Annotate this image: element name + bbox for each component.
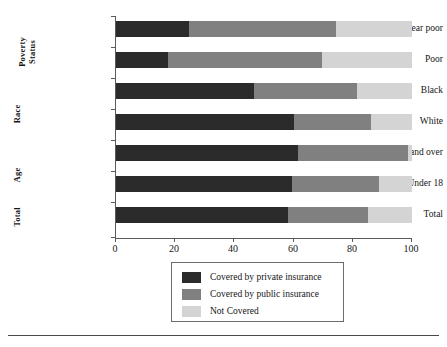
group-label-race: Race (0, 82, 34, 144)
bar-segment-not-covered (379, 176, 412, 192)
bar-segment-covered-by-public-insurance (288, 207, 368, 223)
bar-segment-not-covered (408, 145, 412, 161)
x-axis-tick (293, 238, 294, 242)
bar-segment-covered-by-private-insurance (116, 52, 168, 68)
plot-area: 0 20 40 60 80 100 (115, 16, 412, 238)
group-label-poverty-status-text: Poverty Status (17, 25, 37, 79)
bar-under-18 (116, 176, 412, 192)
bar-poor (116, 52, 412, 68)
bar-segment-not-covered (336, 21, 412, 37)
legend: Covered by private insurance Covered by … (171, 262, 344, 322)
chart-figure: Poverty Status Race Age Total Near poor … (0, 0, 447, 347)
legend-label-private: Covered by private insurance (210, 272, 322, 282)
bar-white (116, 114, 412, 130)
y-axis-tick (111, 140, 115, 141)
bar-segment-covered-by-private-insurance (116, 114, 294, 130)
bar-segment-covered-by-private-insurance (116, 145, 298, 161)
group-label-total: Total (0, 192, 34, 240)
bar-segment-covered-by-private-insurance (116, 207, 288, 223)
x-axis-tick (411, 238, 412, 242)
bar-segment-covered-by-public-insurance (292, 176, 379, 192)
x-tick-label-40: 40 (228, 243, 238, 254)
y-axis-tick (111, 109, 115, 110)
x-tick-label-60: 60 (288, 243, 298, 254)
bar-segment-covered-by-public-insurance (254, 83, 358, 99)
x-tick-label-20: 20 (169, 243, 179, 254)
bar-segment-covered-by-private-insurance (116, 83, 254, 99)
x-tick-label-80: 80 (347, 243, 357, 254)
bar-segment-not-covered (371, 114, 412, 130)
bar-segment-covered-by-public-insurance (294, 114, 371, 130)
x-axis-tick (233, 238, 234, 242)
legend-swatch-not-covered-icon (182, 306, 201, 317)
bar-segment-covered-by-private-insurance (116, 176, 292, 192)
legend-swatch-public-icon (182, 289, 201, 300)
legend-item-private: Covered by private insurance (182, 269, 343, 285)
group-label-age-text: Age (12, 168, 22, 183)
bar-segment-covered-by-public-insurance (168, 52, 323, 68)
bar-segment-covered-by-public-insurance (298, 145, 408, 161)
bar-segment-not-covered (322, 52, 412, 68)
group-label-race-text: Race (12, 105, 22, 124)
legend-item-public: Covered by public insurance (182, 286, 343, 302)
legend-label-not-covered: Not Covered (210, 306, 259, 316)
bar-black (116, 83, 412, 99)
bar-total (116, 207, 412, 223)
y-axis-tick (111, 171, 115, 172)
y-axis-tick (111, 78, 115, 79)
x-axis-tick (352, 238, 353, 242)
y-axis-tick (111, 202, 115, 203)
legend-item-not-covered: Not Covered (182, 303, 343, 319)
bar-segment-not-covered (368, 207, 412, 223)
bar-segment-covered-by-public-insurance (189, 21, 336, 37)
x-axis-tick (174, 238, 175, 242)
group-label-total-text: Total (12, 207, 22, 227)
legend-swatch-private-icon (182, 272, 201, 283)
bar-segment-covered-by-private-insurance (116, 21, 189, 37)
bar-segment-not-covered (357, 83, 412, 99)
x-tick-label-0: 0 (113, 243, 118, 254)
bar-65-and-over (116, 145, 412, 161)
x-axis-line (115, 238, 412, 239)
legend-label-public: Covered by public insurance (210, 289, 319, 299)
x-tick-label-100: 100 (404, 243, 419, 254)
y-axis-tick (111, 47, 115, 48)
group-label-poverty-status: Poverty Status (0, 20, 34, 82)
footer-rule (8, 335, 439, 336)
x-axis-tick (115, 238, 116, 242)
bar-near-poor (116, 21, 412, 37)
y-axis-tick (111, 16, 115, 17)
